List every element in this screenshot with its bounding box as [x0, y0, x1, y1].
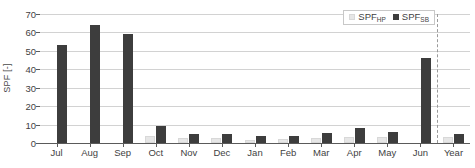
y-tick-label: 70 — [25, 9, 36, 20]
y-tick-label: 60 — [25, 27, 36, 38]
bar-group[interactable] — [73, 14, 106, 143]
x-axis-line — [40, 143, 470, 144]
bar-spf-sb[interactable] — [156, 126, 166, 143]
legend-label-spf-sb: SPFSB — [402, 12, 429, 22]
x-axis-label-feb: Feb — [272, 147, 305, 158]
bar-spf-sb[interactable] — [289, 136, 299, 143]
y-tick-label: 10 — [25, 119, 36, 130]
bar-group[interactable] — [404, 14, 437, 143]
bar-spf-sb[interactable] — [222, 134, 232, 143]
bar-spf-sb[interactable] — [256, 136, 266, 143]
legend-label-spf-hp: SPFHP — [358, 12, 386, 22]
legend-swatch-sb-icon — [393, 14, 399, 20]
x-axis-label-nov: Nov — [172, 147, 205, 158]
x-axis-label-jan: Jan — [238, 147, 271, 158]
bar-group[interactable] — [238, 14, 271, 143]
bar-spf-sb[interactable] — [189, 134, 199, 143]
x-axis-label-aug: Aug — [73, 147, 106, 158]
bar-spf-sb[interactable] — [322, 133, 332, 143]
bar-groups — [40, 14, 470, 143]
bar-group[interactable] — [272, 14, 305, 143]
bar-spf-sb[interactable] — [90, 25, 100, 143]
bar-spf-sb[interactable] — [57, 45, 67, 143]
y-tick-label: 20 — [25, 101, 36, 112]
legend-swatch-hp-icon — [349, 14, 355, 20]
bar-spf-sb[interactable] — [355, 128, 365, 143]
x-axis-label-jul: Jul — [40, 147, 73, 158]
x-axis-label-year: Year — [437, 147, 470, 158]
spf-bar-chart: SPF [-] 010203040506070 JulAugSepOctNovD… — [0, 0, 475, 168]
x-axis-label-mar: Mar — [305, 147, 338, 158]
bar-group[interactable] — [172, 14, 205, 143]
bar-spf-sb[interactable] — [421, 58, 431, 143]
y-tick-label: 40 — [25, 64, 36, 75]
y-tick-label: 50 — [25, 45, 36, 56]
bar-spf-sb[interactable] — [454, 134, 464, 143]
legend-item-spf-hp[interactable]: SPFHP — [349, 12, 386, 22]
bar-group[interactable] — [338, 14, 371, 143]
bar-group[interactable] — [106, 14, 139, 143]
period-separator-line — [437, 14, 438, 143]
y-axis-title: SPF [-] — [2, 48, 12, 108]
x-axis-label-dec: Dec — [205, 147, 238, 158]
x-axis-label-jun: Jun — [404, 147, 437, 158]
x-axis-label-may: May — [371, 147, 404, 158]
bar-group[interactable] — [305, 14, 338, 143]
y-tick-label: 30 — [25, 82, 36, 93]
bar-group[interactable] — [205, 14, 238, 143]
x-axis-label-apr: Apr — [338, 147, 371, 158]
bar-group[interactable] — [139, 14, 172, 143]
x-axis-labels: JulAugSepOctNovDecJanFebMarAprMayJunYear — [40, 147, 470, 158]
legend-item-spf-sb[interactable]: SPFSB — [393, 12, 429, 22]
plot-area: 010203040506070 — [40, 14, 470, 143]
y-tick-label: 0 — [31, 138, 36, 149]
bar-group[interactable] — [40, 14, 73, 143]
bar-spf-sb[interactable] — [388, 132, 398, 143]
x-axis-label-oct: Oct — [139, 147, 172, 158]
bar-spf-sb[interactable] — [123, 34, 133, 143]
bar-group[interactable] — [371, 14, 404, 143]
bar-group[interactable] — [437, 14, 470, 143]
chart-legend: SPFHP SPFSB — [343, 10, 435, 25]
bar-spf-hp[interactable] — [145, 136, 155, 143]
x-axis-label-sep: Sep — [106, 147, 139, 158]
